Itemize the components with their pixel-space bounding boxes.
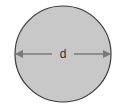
- diagram-canvas: d: [0, 0, 119, 112]
- diameter-label: d: [60, 47, 67, 61]
- circle-diagram: d: [0, 0, 119, 112]
